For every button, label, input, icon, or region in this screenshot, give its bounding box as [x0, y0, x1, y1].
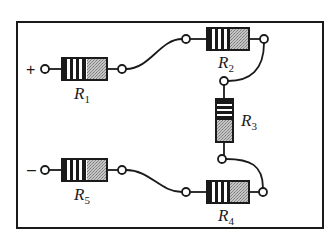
node-r4-left	[182, 188, 190, 196]
resistor-r2	[207, 28, 249, 50]
resistor-r5	[62, 159, 107, 181]
resistor-r3	[216, 99, 233, 142]
node-negative	[41, 166, 49, 174]
node-positive	[41, 65, 49, 73]
label-r2: R2	[217, 53, 234, 74]
node-r5-right	[118, 166, 126, 174]
circuit-diagram: + – R1 R2 R3 R4 R5	[0, 0, 335, 242]
circuit-frame	[17, 22, 323, 228]
node-r2-right	[260, 35, 268, 43]
label-r3: R3	[240, 111, 257, 132]
label-r1: R1	[73, 84, 90, 105]
node-r1-right	[118, 65, 126, 73]
positive-terminal-sign: +	[26, 61, 35, 78]
label-r4: R4	[217, 206, 234, 227]
node-r3-top	[220, 77, 228, 85]
resistor-r1	[62, 58, 107, 80]
negative-terminal-sign: –	[27, 161, 36, 178]
node-r4-right	[259, 188, 267, 196]
node-r2-left	[182, 35, 190, 43]
label-r5: R5	[73, 185, 90, 206]
node-r3-bottom	[218, 155, 226, 163]
resistor-r4	[207, 181, 249, 203]
